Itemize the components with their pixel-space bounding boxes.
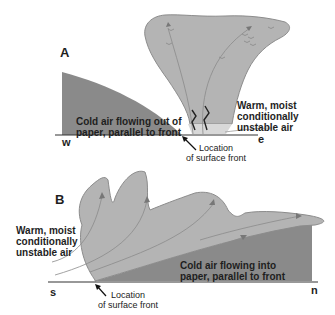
panel-b-label: B — [55, 194, 64, 205]
panel-a-warm-air-text: Warm, moist conditionally unstable air — [237, 100, 299, 133]
panel-b-north-label: n — [311, 285, 318, 296]
panel-a-label: A — [60, 47, 69, 58]
panel-b-warm-air-text: Warm, moist conditionally unstable air — [16, 225, 78, 258]
panel-b-south-label: s — [50, 287, 56, 298]
panel-b-front-location-text: Location of surface front — [98, 290, 158, 310]
panel-b-cold-air-text: Cold air flowing into paper, parallel to… — [180, 260, 285, 282]
panel-a-cold-air-text: Cold air flowing out of paper, parallel … — [76, 116, 182, 138]
panel-a-east-label: e — [258, 134, 264, 145]
panel-a-front-location-text: Location of surface front — [186, 143, 246, 163]
panel-a-west-label: w — [62, 137, 71, 148]
